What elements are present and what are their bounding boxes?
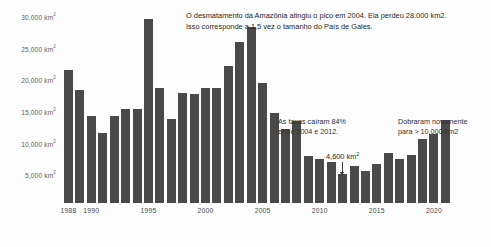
y-axis-tick: 20,000 km2 (21, 77, 56, 84)
bar (121, 109, 130, 203)
bar (190, 94, 199, 203)
y-axis-tick: 25,000 km2 (21, 45, 56, 52)
bar (155, 88, 164, 203)
bar (87, 116, 96, 203)
deforestation-bar-chart: 30,000 km225,000 km220,000 km215,000 km2… (0, 0, 491, 247)
callout-arrow-icon (342, 162, 343, 175)
x-axis-tick-label: 2020 (426, 207, 442, 214)
y-axis-tick-unit-exponent: 2 (53, 139, 56, 144)
bar (384, 153, 393, 203)
bar (110, 116, 119, 203)
bar (395, 159, 404, 203)
x-axis-tick-label: 1995 (140, 207, 156, 214)
y-axis-tick-label: 5,000 km (25, 172, 53, 179)
y-axis-tick: 10,000 km2 (21, 140, 56, 147)
y-axis-tick-unit-exponent: 2 (53, 76, 56, 81)
bar (212, 88, 221, 203)
annotation-rate-rise: Dobraram novamente para > 10.000 km2 (398, 117, 490, 137)
y-axis-tick-label: 20,000 km (21, 77, 53, 84)
x-axis-tick-label: 2015 (369, 207, 385, 214)
y-axis-tick-unit-exponent: 2 (53, 171, 56, 176)
bar (75, 90, 84, 203)
bar (418, 139, 427, 203)
y-axis-tick: 5,000 km2 (25, 172, 56, 179)
x-axis-tick-label: 1990 (83, 207, 99, 214)
bar (361, 171, 370, 203)
callout-2012-minimum: 4,600 km2 (314, 152, 372, 175)
bar (201, 88, 210, 203)
bar (133, 109, 142, 203)
y-axis-tick-unit-exponent: 2 (53, 44, 56, 49)
y-axis-tick: 15,000 km2 (21, 109, 56, 116)
y-axis-tick-label: 10,000 km (21, 140, 53, 147)
y-axis-tick-label: 25,000 km (21, 45, 53, 52)
y-axis-tick-unit-exponent: 2 (53, 12, 56, 17)
bar (144, 19, 153, 203)
annotation-rate-drop: As taxas caíram 84% entre 2004 e 2012. (278, 117, 370, 137)
y-axis-tick-label: 15,000 km (21, 109, 53, 116)
bar (338, 174, 347, 203)
y-axis-tick: 30,000 km2 (21, 14, 56, 21)
bar (64, 70, 73, 203)
x-axis-tick-label: 2000 (198, 207, 214, 214)
bar (304, 156, 313, 203)
x-axis: 19881990199520002005201020152020 (62, 207, 491, 223)
bar (247, 27, 256, 203)
bar (167, 119, 176, 203)
bar (235, 42, 244, 203)
bar (178, 93, 187, 203)
y-axis: 30,000 km225,000 km220,000 km215,000 km2… (0, 0, 62, 247)
callout-label: 4,600 km2 (314, 152, 372, 161)
bar (281, 129, 290, 203)
bar (407, 155, 416, 203)
bar (372, 164, 381, 203)
bar (224, 66, 233, 203)
y-axis-tick-unit-exponent: 2 (53, 107, 56, 112)
callout-unit-exponent: 2 (356, 151, 359, 157)
x-axis-tick-label: 2005 (255, 207, 271, 214)
y-axis-tick-label: 30,000 km (21, 14, 53, 21)
bar (98, 133, 107, 203)
x-axis-tick-label: 1988 (61, 207, 77, 214)
bar-series (62, 13, 491, 203)
callout-value: 4,600 km (326, 152, 356, 161)
annotation-headline: O desmatamento da Amazônia atingiu o pic… (186, 11, 476, 32)
bar (429, 134, 438, 203)
x-axis-tick-label: 2010 (312, 207, 328, 214)
bar (258, 83, 267, 203)
